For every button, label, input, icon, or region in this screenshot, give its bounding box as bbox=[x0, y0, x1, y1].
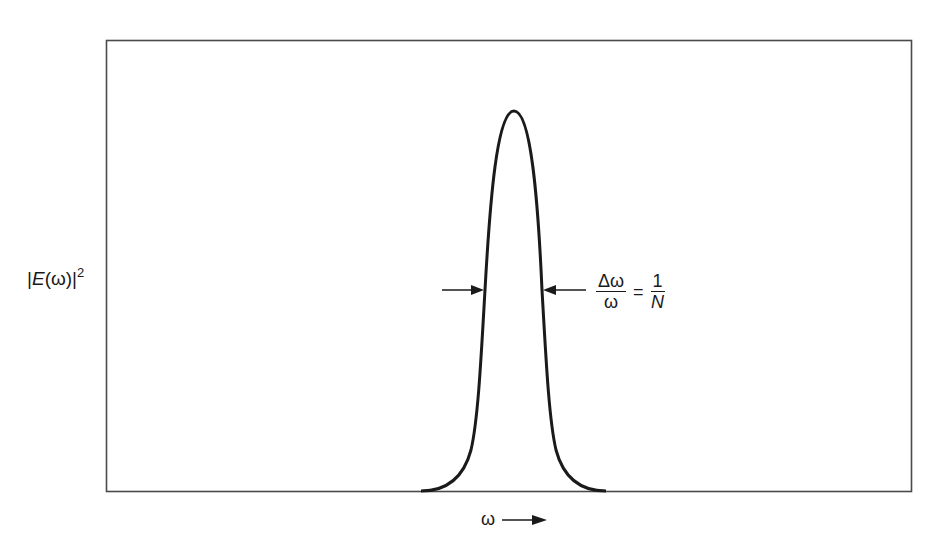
fraction-numerator: 1 bbox=[651, 272, 665, 292]
y-label-paren: (ω)| bbox=[45, 268, 77, 289]
fraction-denominator: ω bbox=[604, 292, 618, 312]
y-label-exponent: 2 bbox=[77, 265, 84, 280]
fraction-numerator: Δω bbox=[596, 272, 626, 292]
left-width-arrow bbox=[442, 285, 484, 295]
width-annotation: Δω ω = 1 N bbox=[596, 272, 665, 312]
equals-sign: = bbox=[633, 282, 644, 303]
fraction-denominator: N bbox=[651, 292, 664, 312]
x-axis-arrow-icon bbox=[502, 515, 547, 525]
fraction-delta-omega: Δω ω bbox=[596, 272, 626, 312]
spectral-peak-curve bbox=[421, 111, 606, 491]
fraction-one-over-n: 1 N bbox=[651, 272, 665, 312]
right-width-arrow bbox=[543, 285, 586, 295]
chart-canvas bbox=[0, 0, 942, 543]
plot-frame bbox=[107, 41, 912, 492]
y-axis-label: |E(ω)|2 bbox=[27, 266, 84, 290]
y-label-var: E bbox=[32, 268, 45, 289]
x-axis-label: ω bbox=[481, 509, 495, 530]
